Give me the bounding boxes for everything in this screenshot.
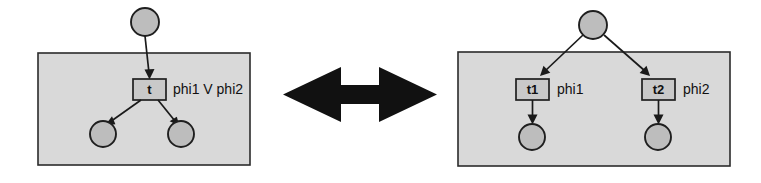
right-output-place-1 <box>519 124 545 150</box>
right-formula-label-2: phi2 <box>683 81 710 97</box>
petri-net-equivalence-figure: t phi1 V phi2 <box>0 0 761 183</box>
left-top-place <box>131 8 159 36</box>
right-transition-t2-label: t2 <box>653 82 665 97</box>
left-net-group: t phi1 V phi2 <box>38 8 250 165</box>
left-net-panel <box>38 53 250 165</box>
left-output-place-2 <box>168 121 194 147</box>
double-headed-arrow-icon <box>283 67 437 122</box>
right-output-place-2 <box>645 124 671 150</box>
equivalence-relation <box>283 67 437 122</box>
right-formula-label-1: phi1 <box>557 81 584 97</box>
left-formula-label: phi1 V phi2 <box>173 81 243 97</box>
right-net-panel <box>458 52 730 166</box>
left-output-place-1 <box>90 121 116 147</box>
right-net-group: t1 phi1 t2 phi2 <box>458 11 730 166</box>
left-transition-t-label: t <box>147 82 152 97</box>
right-top-place <box>579 11 607 39</box>
figure-canvas: t phi1 V phi2 <box>0 0 761 183</box>
right-transition-t1-label: t1 <box>527 82 539 97</box>
